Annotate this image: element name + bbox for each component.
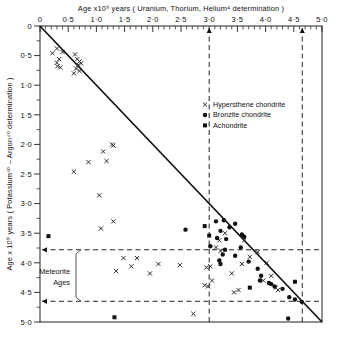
data-point-x xyxy=(232,290,236,294)
data-point-x xyxy=(73,52,77,56)
data-point-circle xyxy=(233,222,237,226)
data-point-circle xyxy=(218,262,222,266)
data-point-x xyxy=(129,264,133,268)
x-axis-title: Age x10⁹ years ( Uranium, Thorium, Heliu… xyxy=(78,4,284,13)
y-axis-tick-label: 0·5 xyxy=(20,51,32,60)
legend-label: Bronzite chondrite xyxy=(213,110,271,119)
scatter-plot: 00·51·01·52·02·53·03·54·04·55·000·51·01·… xyxy=(0,0,347,342)
data-point-circle xyxy=(256,267,260,271)
data-point-x xyxy=(72,71,76,75)
data-point-circle xyxy=(293,297,297,301)
data-point-square xyxy=(203,224,207,228)
legend-marker-circle xyxy=(203,113,207,117)
data-point-x xyxy=(99,226,103,230)
y-axis-tick-label: 4·0 xyxy=(20,259,32,268)
x-axis-tick-label: 1·0 xyxy=(91,15,103,24)
meteorite-ages-label-line2: Ages xyxy=(53,278,70,287)
x-axis-tick-label: 3·0 xyxy=(203,15,215,24)
data-point-square xyxy=(112,315,116,319)
data-point-circle xyxy=(233,253,237,257)
y-axis-tick-label: 1·5 xyxy=(20,111,32,120)
legend-marker-x xyxy=(203,103,207,107)
data-point-circle xyxy=(227,225,231,229)
data-point-circle xyxy=(214,219,218,223)
data-point-circle xyxy=(218,229,222,233)
y-axis-tick-label: 1·0 xyxy=(20,81,32,90)
y-axis-title: Age x 10⁹ years ( Potassium⁴⁰ – Argon⁴⁰ … xyxy=(5,77,14,270)
y-axis-tick-label: 3·5 xyxy=(20,229,32,238)
data-point-x xyxy=(204,265,208,269)
data-point-circle xyxy=(287,295,291,299)
data-point-x xyxy=(135,256,139,260)
data-point-circle xyxy=(224,237,228,241)
x-axis-tick-label: 4·0 xyxy=(260,15,272,24)
data-point-x xyxy=(72,170,76,174)
x-axis-tick-label: 0 xyxy=(38,15,42,24)
x-axis-tick-label: 3·5 xyxy=(232,15,244,24)
x-axis-tick-label: 5·0 xyxy=(316,15,328,24)
data-point-circle xyxy=(183,227,187,231)
y-axis-tick-label: 5·0 xyxy=(20,318,32,327)
data-point-x xyxy=(269,274,273,278)
y-axis-tick-label: 4·5 xyxy=(20,288,32,297)
x-axis-tick-label: 1·5 xyxy=(119,15,131,24)
data-point-x xyxy=(121,256,125,260)
data-point-circle xyxy=(280,287,284,291)
data-point-x xyxy=(240,262,244,266)
data-point-circle xyxy=(246,259,250,263)
meteorite-ages-bracket xyxy=(76,250,81,302)
marker-arrow-icon xyxy=(42,299,47,304)
marker-arrow-icon xyxy=(207,28,212,33)
x-axis-tick-label: 4·5 xyxy=(288,15,300,24)
data-point-x xyxy=(248,255,252,259)
data-point-x xyxy=(178,263,182,267)
data-point-square xyxy=(207,234,211,238)
data-point-circle xyxy=(221,252,225,256)
data-point-circle xyxy=(239,245,243,249)
data-point-square xyxy=(46,234,50,238)
data-point-x xyxy=(114,269,118,273)
data-point-x xyxy=(191,312,195,316)
data-point-x xyxy=(218,249,222,253)
x-axis-tick-label: 0·5 xyxy=(62,15,74,24)
y-axis-tick-label: 0 xyxy=(28,22,32,31)
figure: 00·51·01·52·02·53·03·54·04·55·000·51·01·… xyxy=(0,0,347,342)
data-point-x xyxy=(77,69,81,73)
data-point-x xyxy=(148,271,152,275)
marker-arrow-icon xyxy=(42,247,47,252)
data-point-x xyxy=(111,219,115,223)
data-point-circle xyxy=(223,248,227,252)
data-point-circle xyxy=(272,284,276,288)
legend-label: Achondrite xyxy=(213,121,247,130)
marker-arrow-icon xyxy=(300,28,305,33)
data-point-circle xyxy=(259,274,263,278)
data-point-circle xyxy=(208,244,212,248)
data-point-square xyxy=(248,286,252,290)
legend-label: Hypersthene chondrite xyxy=(213,100,285,109)
data-point-x xyxy=(101,149,105,153)
data-point-x xyxy=(57,57,61,61)
data-point-x xyxy=(230,271,234,275)
data-point-x xyxy=(276,288,280,292)
data-point-circle xyxy=(299,300,303,304)
data-point-x xyxy=(111,143,115,147)
data-point-x xyxy=(86,160,90,164)
data-point-x xyxy=(50,51,54,55)
data-point-circle xyxy=(240,232,244,236)
data-point-x xyxy=(203,283,207,287)
y-axis-tick-label: 2·0 xyxy=(20,140,32,149)
data-point-x xyxy=(74,67,78,71)
data-point-x xyxy=(97,193,101,197)
data-point-circle xyxy=(215,236,219,240)
data-point-x xyxy=(214,245,218,249)
data-point-circle xyxy=(222,218,226,222)
data-point-square xyxy=(293,280,297,284)
x-axis-tick-label: 2·0 xyxy=(147,15,159,24)
data-point-circle xyxy=(258,278,262,282)
data-point-x xyxy=(156,262,160,266)
data-point-circle xyxy=(286,316,290,320)
data-point-x xyxy=(104,159,108,163)
data-point-x xyxy=(223,231,227,235)
data-point-x xyxy=(55,46,59,50)
data-point-x xyxy=(236,288,240,292)
